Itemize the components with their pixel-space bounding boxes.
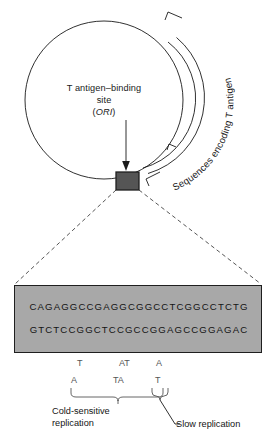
ori-pointer-arrowhead xyxy=(122,161,130,171)
sv40-origin-diagram: Sequences encoding T antigen T antigen–b… xyxy=(0,0,273,444)
mutation-row-upper: T AT A xyxy=(0,358,273,370)
arc-tick-outer-start xyxy=(168,12,182,18)
expansion-line-right xyxy=(139,190,261,284)
mutation-upper-3: A xyxy=(156,358,162,368)
slow-replication-caption: Slow replication xyxy=(176,419,272,431)
expansion-line-left xyxy=(15,190,116,284)
bottom-strand-sequence: GTCTCCGGCTCCGCCGGAGCCGGAGAC xyxy=(15,324,263,335)
mutation-lower-3: T xyxy=(155,375,161,385)
ori-gene-name: ORI xyxy=(96,107,113,117)
ori-label-line2: site xyxy=(34,94,174,106)
arc-tick-outer-end-cap xyxy=(146,179,149,186)
arc-tick-inner-end xyxy=(169,144,176,147)
cold-sensitive-brace xyxy=(71,388,163,401)
ori-label-line3: (ORI) xyxy=(34,106,174,118)
mutation-upper-1: T xyxy=(77,358,83,368)
top-strand-sequence: CAGAGGCCGAGGCGGCCTCGGCCTCTG xyxy=(15,301,263,312)
ori-site-marker xyxy=(116,172,139,190)
cold-sensitive-caption-line1: Cold-sensitive xyxy=(52,406,162,418)
ori-center-label: T antigen–binding site (ORI) xyxy=(34,82,174,118)
slow-replication-brace xyxy=(152,388,168,400)
arc-tick-outer-start-cap xyxy=(165,12,168,20)
sequence-detail-box: CAGAGGCCGAGGCGGCCTCGGCCTCTG GTCTCCGGCTCC… xyxy=(14,285,262,353)
ori-label-line1: T antigen–binding xyxy=(34,82,174,94)
mutation-upper-2: AT xyxy=(119,358,130,368)
cold-sensitive-caption: Cold-sensitive replication xyxy=(52,406,162,429)
mutation-row-lower: A TA T xyxy=(0,375,273,387)
mutation-lower-1: A xyxy=(71,375,77,385)
mutation-lower-2: TA xyxy=(113,375,124,385)
cold-sensitive-caption-line2: replication xyxy=(52,418,162,430)
